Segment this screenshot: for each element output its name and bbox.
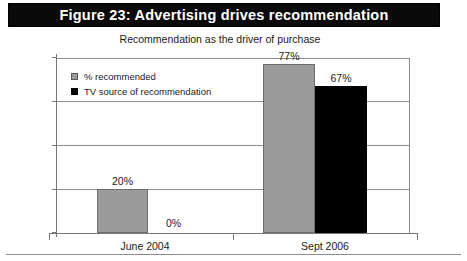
bar-sept2006-tvsource[interactable]	[315, 86, 367, 233]
x-axis-tick-end	[417, 233, 418, 240]
x-axis-tick-middle	[233, 233, 234, 240]
figure-title-banner: Figure 23: Advertising drives recommenda…	[8, 3, 440, 27]
chart-plot-area: 20% 0% 77% 67% % recommended TV source o…	[57, 58, 410, 233]
y-axis-tick-80	[52, 57, 57, 58]
legend-item-tvsource[interactable]: TV source of recommendation	[71, 85, 211, 98]
y-axis-tick-40	[52, 145, 57, 146]
x-axis-category-sept-2006: Sept 2006	[233, 240, 417, 252]
legend-label-recommended: % recommended	[84, 71, 156, 82]
legend-label-tvsource: TV source of recommendation	[84, 86, 211, 97]
bottom-divider	[6, 254, 461, 255]
bar-sept2006-recommended[interactable]	[263, 64, 315, 233]
x-axis-category-june-2004: June 2004	[57, 240, 233, 252]
legend-item-recommended[interactable]: % recommended	[71, 70, 211, 83]
figure-container: Figure 23: Advertising drives recommenda…	[0, 0, 467, 261]
chart-legend: % recommended TV source of recommendatio…	[71, 70, 211, 100]
bar-label-sept2006-recommended: 77%	[263, 50, 315, 62]
x-axis-tick-start	[49, 233, 50, 240]
bar-label-june2004-tvsource: 0%	[148, 217, 199, 229]
bar-label-sept2006-tvsource: 67%	[315, 72, 367, 84]
legend-swatch-icon-gray	[71, 73, 78, 80]
bar-label-june2004-recommended: 20%	[97, 175, 148, 187]
page-title: Figure 23: Advertising drives recommenda…	[60, 7, 389, 23]
legend-swatch-icon-black	[71, 88, 78, 95]
y-axis-tick-60	[52, 101, 57, 102]
bar-june2004-recommended[interactable]	[97, 189, 148, 233]
y-axis-tick-20	[52, 189, 57, 190]
chart-subtitle: Recommendation as the driver of purchase	[0, 33, 440, 45]
